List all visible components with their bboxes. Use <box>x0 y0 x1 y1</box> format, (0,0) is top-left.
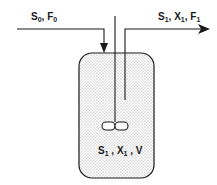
tank-contents-label: S1 , X1 , V <box>98 146 143 157</box>
biomass-symbol: X <box>117 145 124 156</box>
substrate-symbol: S <box>98 145 105 156</box>
separator: , <box>128 145 136 156</box>
inlet-feed-arrow <box>17 29 108 53</box>
separator: , <box>109 145 117 156</box>
substrate-symbol: S <box>31 11 38 22</box>
outlet-label: S1, X1, F1 <box>158 12 200 23</box>
reactor-diagram <box>0 0 217 185</box>
substrate-symbol: S <box>158 11 165 22</box>
inlet-label: S0, F0 <box>31 12 57 23</box>
tank-vessel <box>79 53 154 178</box>
subscript: 0 <box>53 16 57 23</box>
subscript: 1 <box>196 16 200 23</box>
volume-symbol: V <box>136 145 143 156</box>
biomass-symbol: X <box>174 11 181 22</box>
arrowhead-down-icon <box>100 43 108 53</box>
